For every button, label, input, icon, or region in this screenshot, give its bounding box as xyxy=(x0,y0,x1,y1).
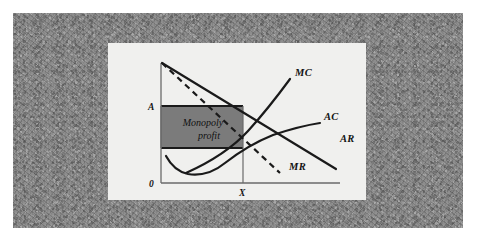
origin-label: 0 xyxy=(149,179,154,189)
mc-label: MC xyxy=(294,67,313,78)
diagram-card: MC AC AR MR A 0 X Monopoly profit xyxy=(108,43,366,200)
monopoly-profit-label-line1: Monopoly xyxy=(182,117,224,128)
monopoly-chart: MC AC AR MR A 0 X Monopoly profit xyxy=(108,43,366,200)
monopoly-profit-label-line2: profit xyxy=(197,130,220,141)
x-axis-tick-label-x: X xyxy=(238,188,246,198)
y-axis-tick-label-a: A xyxy=(147,102,154,112)
mr-label: MR xyxy=(288,161,306,172)
ar-label: AR xyxy=(339,133,355,144)
figure-root: MC AC AR MR A 0 X Monopoly profit xyxy=(0,0,477,241)
ac-label: AC xyxy=(323,111,339,122)
